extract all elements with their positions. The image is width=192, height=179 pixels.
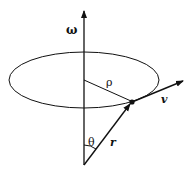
particle-point	[129, 99, 134, 104]
rho-label: ρ	[106, 76, 112, 89]
r-vector-arrow	[84, 104, 130, 165]
v-vector-arrow	[132, 81, 183, 102]
r-label: r	[110, 136, 117, 149]
omega-label: ω	[66, 23, 77, 37]
theta-label: θ	[88, 136, 95, 149]
v-label: v	[161, 93, 168, 106]
rotation-diagram: ω ρ v r θ	[0, 0, 192, 179]
